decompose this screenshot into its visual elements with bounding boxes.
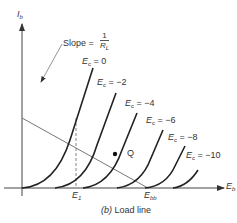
y-axis-label: Ib xyxy=(17,10,23,20)
q-point-label: Q xyxy=(127,149,134,158)
curve-label-ec-minus6: Ec = −6 xyxy=(146,116,176,126)
figure-caption: (b) Load line xyxy=(101,206,151,215)
load-line-diagram xyxy=(0,0,237,223)
curve-ec-minus2 xyxy=(55,93,116,188)
curve-ec-minus10 xyxy=(173,170,198,188)
curve-ec-0 xyxy=(22,68,93,188)
curve-ec-minus8 xyxy=(145,146,185,188)
curve-label-ec-minus10: Ec = −10 xyxy=(186,151,221,161)
x-axis-label: Eb xyxy=(226,182,235,192)
curve-label-ec-minus2: Ec = −2 xyxy=(97,78,127,88)
curve-label-ec-minus4: Ec = −4 xyxy=(125,99,155,109)
slope-fraction: 1 RL xyxy=(100,31,109,53)
slope-label: Slope = xyxy=(63,39,94,48)
curve-label-ec-0: Ec = 0 xyxy=(82,57,106,67)
curve-label-ec-minus8: Ec = −8 xyxy=(168,133,198,143)
curve-ec-minus6 xyxy=(117,130,163,188)
slope-pointer-line xyxy=(41,44,62,82)
q-point-marker xyxy=(113,152,117,156)
e1-label: E1 xyxy=(72,191,81,201)
ebb-label: Ebb xyxy=(144,191,157,201)
